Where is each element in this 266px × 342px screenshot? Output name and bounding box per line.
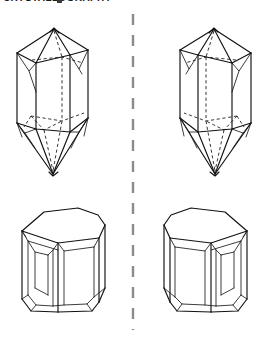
crystal-diagram-canvas [0, 0, 266, 342]
crystal-bottom-left [22, 208, 105, 312]
crystal-figure: CRYSTALLOGRAPHY [0, 0, 266, 342]
crystal-top-left [17, 28, 88, 176]
crystal-top-right [180, 28, 251, 176]
crystal-bottom-right [164, 208, 247, 312]
